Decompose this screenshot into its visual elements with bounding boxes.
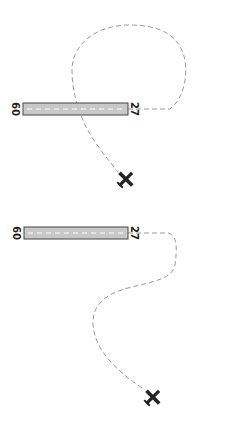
runway-label-09: 09 [12,226,23,240]
svg-text:09: 09 [12,226,23,240]
airplane-icon [140,385,165,410]
runway [23,103,128,115]
flight-path [93,233,176,390]
traffic-pattern-diagram-2: 09 27 [0,220,230,443]
runway [24,227,128,239]
runway-label-09: 09 [11,102,22,116]
svg-text:27: 27 [129,226,140,240]
svg-text:27: 27 [129,102,140,116]
svg-text:09: 09 [11,102,22,116]
traffic-pattern-diagram-1: 09 27 [0,0,230,220]
flight-path [72,25,186,172]
runway-label-27: 27 [129,102,140,116]
runway-label-27: 27 [129,226,140,240]
